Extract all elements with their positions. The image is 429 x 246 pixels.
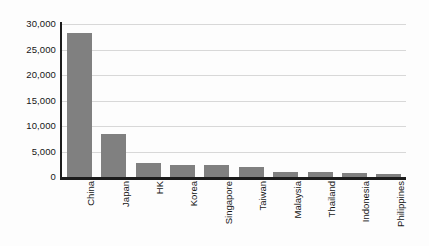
x-axis-tick-label: Indonesia [359, 181, 373, 245]
x-axis-tick-label: Philippines [394, 181, 408, 245]
y-axis-tick-label: 10,000 [26, 121, 56, 131]
x-axis-tick-label: Japan [119, 181, 133, 245]
x-axis-tick-label: Malaysia [291, 181, 305, 245]
y-axis-tick-labels: 05,00010,00015,00020,00025,00030,000 [0, 24, 56, 177]
bar [101, 134, 126, 177]
y-axis-tick-label: 20,000 [26, 70, 56, 80]
x-axis-tick-label: Taiwan [256, 181, 270, 245]
y-axis-tick-label: 25,000 [26, 45, 56, 55]
bar [273, 172, 298, 177]
y-axis-tick-label: 5,000 [32, 147, 56, 157]
bar [204, 165, 229, 177]
y-axis-tick-label: 15,000 [26, 96, 56, 106]
bar [67, 33, 92, 177]
y-axis-tick-label: 30,000 [26, 19, 56, 29]
bars-layer [62, 24, 406, 177]
x-axis-tick-label: Singapore [222, 181, 236, 245]
bar-chart-figure: 05,00010,00015,00020,00025,00030,000 Chi… [0, 0, 429, 246]
x-axis-tick-label: HK [153, 181, 167, 245]
bar [136, 163, 161, 177]
bar [308, 172, 333, 177]
x-axis-tick-labels: ChinaJapanHKKoreaSingaporeTaiwanMalaysia… [62, 181, 406, 245]
x-axis-tick-label: Thailand [325, 181, 339, 245]
bar [342, 173, 367, 177]
bar [239, 167, 264, 177]
x-axis-line [60, 177, 406, 180]
y-axis-tick-label: 0 [51, 172, 56, 182]
x-axis-tick-label: Korea [187, 181, 201, 245]
x-axis-tick-label: China [84, 181, 98, 245]
bar [170, 165, 195, 177]
bar [376, 174, 401, 177]
